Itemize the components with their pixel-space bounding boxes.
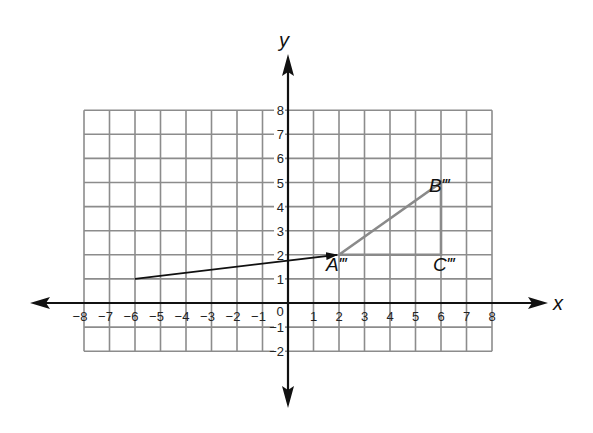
y-axis-label: y xyxy=(277,29,290,51)
x-tick-label: 4 xyxy=(386,309,393,324)
y-tick-label: 5 xyxy=(277,176,284,191)
y-tick-label: 6 xyxy=(277,151,284,166)
x-tick-label: 2 xyxy=(335,309,342,324)
y-tick-label: 1 xyxy=(277,272,284,287)
x-tick-label: 1 xyxy=(310,309,317,324)
label-a: A‴ xyxy=(325,254,348,275)
y-tick-label: 3 xyxy=(277,224,284,239)
x-tick-label: 8 xyxy=(488,309,495,324)
y-tick-label: 7 xyxy=(277,127,284,142)
x-tick-label: −8 xyxy=(73,309,88,324)
x-tick-label: 5 xyxy=(412,309,419,324)
x-tick-label: −6 xyxy=(124,309,139,324)
y-tick-label: 8 xyxy=(277,103,284,118)
y-tick-label: −2 xyxy=(269,344,284,359)
label-c: C‴ xyxy=(433,254,456,275)
x-tick-label: −5 xyxy=(149,309,164,324)
label-b: B‴ xyxy=(429,175,451,196)
x-tick-label: 7 xyxy=(463,309,470,324)
x-tick-label: 3 xyxy=(361,309,368,324)
translation-arrow xyxy=(135,255,337,279)
x-tick-label: −2 xyxy=(226,309,241,324)
coordinate-plane: x y −8−7−6−5−4−3−2−112345678 87654321−1−… xyxy=(0,0,593,433)
x-tick-label: −3 xyxy=(200,309,215,324)
x-tick-label: 6 xyxy=(437,309,444,324)
y-tick-label: 4 xyxy=(277,200,284,215)
x-tick-label: −7 xyxy=(98,309,113,324)
x-tick-label: −1 xyxy=(251,309,266,324)
origin-label: 0 xyxy=(276,304,283,319)
x-axis-label: x xyxy=(552,292,564,314)
y-tick-label: −1 xyxy=(269,320,284,335)
x-tick-label: −4 xyxy=(175,309,190,324)
